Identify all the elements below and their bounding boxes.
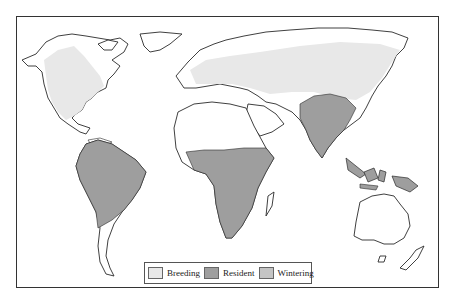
legend-item-breeding: Breeding (148, 267, 200, 279)
legend-label: Resident (223, 268, 255, 278)
north-america (22, 32, 182, 146)
legend-item-resident: Resident (204, 267, 255, 279)
new-zealand (400, 246, 424, 270)
australia (354, 194, 410, 244)
africa-resident-range (186, 148, 274, 238)
wintering-swatch (259, 267, 274, 279)
world-map (0, 0, 454, 307)
breeding-swatch (148, 267, 163, 279)
resident-swatch (204, 267, 219, 279)
tasmania (378, 256, 386, 262)
legend: Breeding Resident Wintering (144, 262, 312, 284)
legend-label: Wintering (278, 268, 314, 278)
indonesia (346, 158, 418, 192)
legend-label: Breeding (167, 268, 200, 278)
sa-resident-range (76, 140, 146, 228)
legend-item-wintering: Wintering (259, 267, 314, 279)
madagascar (266, 192, 274, 216)
